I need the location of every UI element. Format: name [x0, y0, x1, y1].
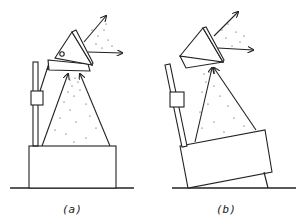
base-box-a	[29, 146, 116, 188]
emit-up-a	[84, 16, 106, 42]
reflector-a	[55, 32, 92, 65]
panel-b	[165, 12, 296, 188]
caption-b: (b)	[216, 203, 236, 216]
stand-clamp-b	[170, 92, 184, 107]
beam-left-b	[195, 68, 212, 142]
beam-right-a	[80, 74, 110, 146]
caption-a: (a)	[62, 203, 82, 216]
base-box-b	[180, 130, 272, 188]
panel-a	[10, 16, 134, 188]
diagram	[0, 0, 303, 224]
stand-clamp-a	[31, 91, 43, 105]
beam-left-a	[42, 74, 68, 146]
emit-right-a	[88, 52, 122, 53]
emit-right-b	[218, 48, 253, 50]
emit-up-b	[214, 12, 238, 36]
beam-right-b	[214, 68, 256, 130]
base-leg-b	[264, 172, 268, 188]
